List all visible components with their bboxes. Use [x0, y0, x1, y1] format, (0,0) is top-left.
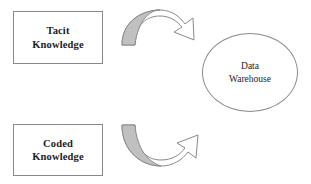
node-coded-knowledge-label-line1: Coded	[43, 137, 73, 150]
diagram-canvas: Tacit Knowledge Coded Knowledge Data War…	[0, 0, 311, 184]
node-data-warehouse[interactable]: Data Warehouse	[202, 33, 298, 112]
curved-arrow-up-right-icon	[114, 118, 209, 176]
node-coded-knowledge-label-line2: Knowledge	[32, 150, 84, 163]
node-data-warehouse-label-line1: Data	[241, 60, 259, 72]
node-data-warehouse-label-line2: Warehouse	[229, 73, 271, 85]
node-coded-knowledge[interactable]: Coded Knowledge	[13, 124, 103, 176]
node-tacit-knowledge[interactable]: Tacit Knowledge	[13, 11, 103, 64]
node-tacit-knowledge-label-line2: Knowledge	[32, 38, 84, 51]
node-tacit-knowledge-label-line1: Tacit	[46, 24, 69, 37]
curved-arrow-down-right-icon	[114, 6, 204, 54]
